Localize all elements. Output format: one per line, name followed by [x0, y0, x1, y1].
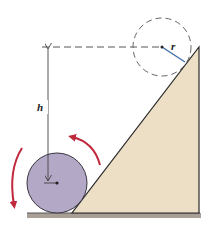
- ball-center-dot: [55, 181, 58, 184]
- ground: [27, 213, 201, 218]
- final-center-dot: [161, 46, 164, 49]
- rotation-arrow-left: [12, 148, 22, 205]
- wedge: [72, 47, 199, 213]
- height-label: h: [37, 101, 43, 113]
- radius-label: r: [171, 40, 176, 52]
- diagram-canvas: r h: [0, 0, 211, 227]
